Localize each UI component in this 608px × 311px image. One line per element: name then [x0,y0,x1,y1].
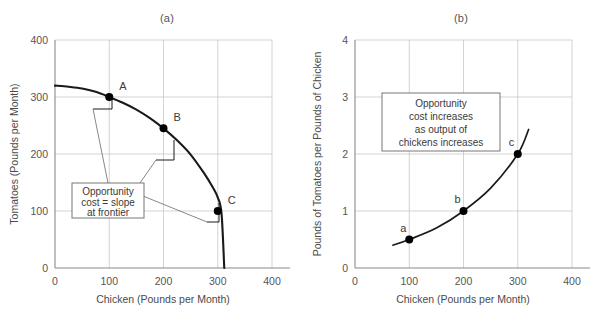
datapoint-small-c-label: c [509,136,515,148]
datapoint-b [160,124,168,132]
datapoint-c [214,207,222,215]
panel-b-ytick-1: 1 [342,205,348,217]
slope-triangle-b [156,140,174,160]
panel-a-xtick-200: 200 [155,275,173,287]
panel-b-callout-line1: Opportunity [415,98,467,109]
datapoint-small-a-label: a [400,222,407,234]
panel-a-xtick-0: 0 [52,275,58,287]
panel-a-xtick-400: 400 [263,275,281,287]
panel-a-ytick-labels: 400 300 200 100 0 [30,34,48,274]
panel-b-callout-line3: as output of [415,124,467,135]
panel-b-xtick-300: 300 [509,275,527,287]
panel-b-gridlines [355,40,572,268]
panel-b-ytick-4: 4 [342,34,348,46]
panel-b-ytick-labels: 4 3 2 1 0 [342,34,348,274]
datapoint-small-c [514,150,522,158]
datapoint-small-a [405,236,413,244]
datapoint-b-label: B [174,111,181,123]
panel-a-xtick-300: 300 [209,275,227,287]
panel-b-ytick-3: 3 [342,91,348,103]
panel-b-xtick-labels: 0 100 200 300 400 [352,275,581,287]
panel-b-yaxis-title: Pounds of Tomatoes per Pounds of Chicken [311,52,323,257]
panel-a-ytick-300: 300 [30,91,48,103]
panel-b-xtick-400: 400 [563,275,581,287]
panel-a-ytick-200: 200 [30,148,48,160]
panel-b-ytick-2: 2 [342,148,348,160]
panel-b-xtick-200: 200 [455,275,473,287]
panel-a-ytick-400: 400 [30,34,48,46]
panel-a-xaxis-title: Chicken (Pounds per Month) [96,293,230,305]
panel-b: (b) 4 3 2 1 0 [304,0,608,311]
panel-b-xaxis-title: Chicken (Pounds per Month) [396,293,530,305]
datapoint-small-b-label: b [455,193,461,205]
panel-a-callout-line1: Opportunity [82,186,134,197]
panel-a-plot: 400 300 200 100 0 0 100 200 300 400 Chic… [0,0,304,311]
datapoint-c-label: C [228,194,236,206]
economics-figure: (a) 400 300 200 [0,0,608,311]
panel-a: (a) 400 300 200 [0,0,304,311]
panel-b-callout-line4: chickens increases [399,137,483,148]
panel-a-ytick-0: 0 [42,262,48,274]
panel-a-ytick-100: 100 [30,205,48,217]
panel-b-xtick-100: 100 [400,275,418,287]
panel-a-gridlines [55,40,272,268]
panel-a-yaxis-title: Tomatoes (Pounds per Month) [8,83,20,224]
panel-a-xtick-100: 100 [100,275,118,287]
frontier-stroke [55,86,224,268]
panel-b-callout-line2: cost increases [409,111,473,122]
datapoint-small-b [460,207,468,215]
panel-b-ytick-0: 0 [342,262,348,274]
datapoint-a-label: A [119,80,127,92]
panel-a-callout-line3: at frontier [87,207,130,218]
datapoint-a [105,93,113,101]
panel-b-xtick-0: 0 [352,275,358,287]
panel-b-plot: 4 3 2 1 0 0 100 200 300 400 Chicken (Pou… [304,0,608,311]
panel-a-xtick-labels: 0 100 200 300 400 [52,275,281,287]
